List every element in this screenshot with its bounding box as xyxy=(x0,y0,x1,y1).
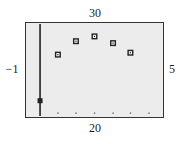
filled-data-point xyxy=(38,98,43,103)
data-point-center xyxy=(57,54,58,55)
x-tick-dot xyxy=(57,113,58,114)
x-tick-dot xyxy=(148,113,149,114)
data-point-center xyxy=(112,43,113,44)
data-point-center xyxy=(94,36,95,37)
x-tick-dot xyxy=(112,113,113,114)
x-tick-dot xyxy=(130,113,131,114)
data-point-center xyxy=(75,41,76,42)
data-point-center xyxy=(130,52,131,53)
scatter-plot xyxy=(0,0,181,144)
x-tick-dot xyxy=(75,113,76,114)
x-tick-dot xyxy=(94,113,95,114)
